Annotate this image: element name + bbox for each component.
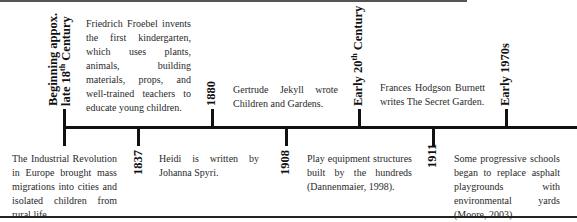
event-description-industrial-revolution: The Industrial Revolution in Europe brou… <box>12 152 117 222</box>
timeline-label-1911: 1911 <box>426 144 439 168</box>
timeline-tick-1880 <box>211 109 214 129</box>
event-description-jekyll: Gertrude Jekyll wrote Children and Garde… <box>233 83 338 111</box>
bottom-border-rule <box>0 216 577 218</box>
timeline-label-early-20th: Early 20th Century <box>352 6 365 106</box>
event-description-froebel: Friedrich Froebel invents the first kind… <box>86 17 191 115</box>
timeline-tick-1908 <box>285 126 288 146</box>
event-description-secret-garden: Frances Hodgson Burnett writes The Secre… <box>380 81 485 109</box>
timeline-tick-early-20th <box>358 109 361 129</box>
label-line-2: late 18th Century <box>60 13 73 106</box>
timeline-label-1908: 1908 <box>279 150 292 175</box>
event-description-play-equipment: Play equipment structures built by the h… <box>307 152 412 194</box>
event-description-heidi: Heidi is written by Johanna Spyri. <box>159 152 259 180</box>
timeline-tick-1837 <box>137 126 140 146</box>
timeline-label-early-1970s: Early 1970s <box>499 43 512 106</box>
timeline-tick-start <box>63 109 66 146</box>
timeline-label-1880: 1880 <box>205 81 218 106</box>
timeline-axis <box>64 126 577 129</box>
timeline-label-1837: 1837 <box>132 150 145 175</box>
top-border-rule <box>0 0 467 2</box>
timeline-tick-early-1970s <box>505 109 508 129</box>
timeline-label-start: Beginning appox. late 18th Century <box>47 13 73 106</box>
event-description-environmental-yards: Some progressive schools began to replac… <box>454 152 560 222</box>
